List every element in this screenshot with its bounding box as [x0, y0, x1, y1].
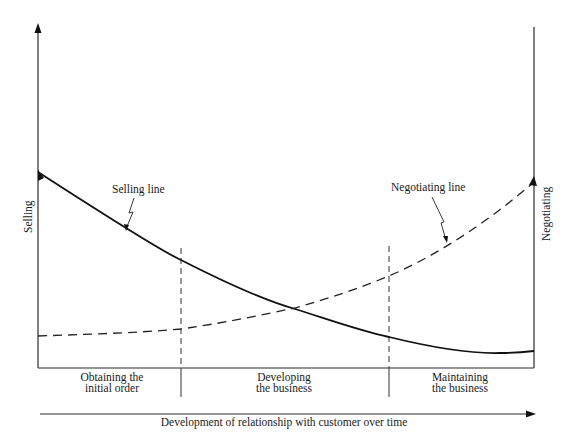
- selling-line: [38, 172, 534, 353]
- stage-2-label-line2: the business: [256, 382, 312, 394]
- negotiating-line: [38, 182, 534, 336]
- negotiating-line-label: Negotiating line: [391, 181, 465, 194]
- negotiating-line-arrow-icon: [529, 176, 537, 186]
- selling-line-label: Selling line: [112, 183, 165, 196]
- stage-labels: Obtaining the initial order Developing t…: [81, 371, 489, 394]
- selling-negotiating-diagram: Selling line Negotiating line Selling Ne…: [0, 0, 570, 445]
- stage-3-label-line2: the business: [432, 382, 488, 394]
- right-axis-label: Negotiating: [540, 186, 553, 241]
- time-axis: Development of relationship with custome…: [40, 411, 536, 430]
- time-axis-arrow-icon: [526, 411, 536, 418]
- negotiating-line-callout: Negotiating line: [391, 181, 465, 243]
- stage-1-label-line2: initial order: [85, 382, 139, 394]
- left-axis-label: Selling: [22, 200, 35, 233]
- time-axis-label: Development of relationship with custome…: [161, 416, 408, 429]
- left-axis-arrow-icon: [35, 23, 42, 33]
- left-axis: [35, 23, 42, 368]
